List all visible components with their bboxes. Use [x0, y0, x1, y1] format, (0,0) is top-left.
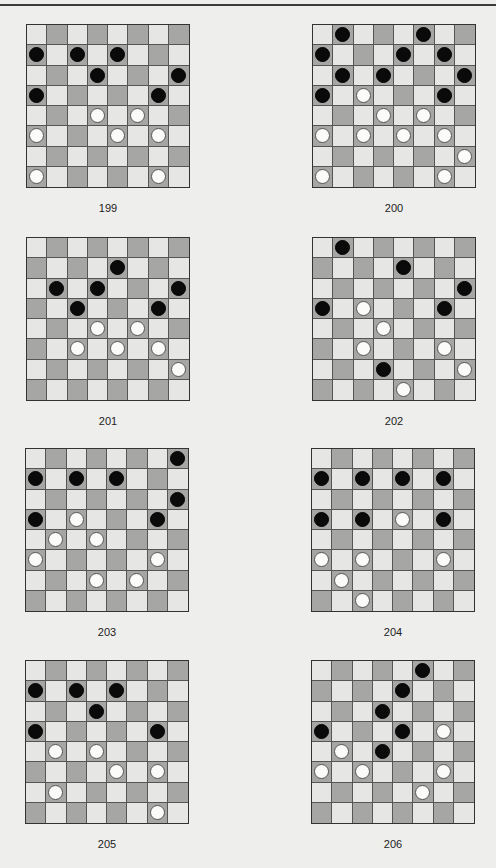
board-square [27, 106, 47, 126]
white-checker-piece-icon [356, 341, 371, 356]
board-square [127, 702, 147, 722]
board-square [27, 319, 47, 339]
board-square [128, 339, 148, 359]
black-checker-piece-icon [70, 47, 85, 62]
board-square [26, 783, 46, 803]
board-square [47, 106, 67, 126]
board-square [107, 681, 127, 701]
board-square [68, 25, 88, 45]
board-square [169, 258, 189, 278]
board-square [128, 45, 148, 65]
board-square [67, 449, 87, 469]
board-square [434, 510, 454, 530]
board-square [374, 238, 394, 258]
black-checker-piece-icon [29, 88, 44, 103]
board-square [108, 66, 128, 86]
board-square [333, 126, 353, 146]
board-square [354, 339, 374, 359]
board-square [333, 319, 353, 339]
board-square [354, 258, 374, 278]
board-square [148, 722, 168, 742]
board-square [434, 550, 454, 570]
board-square [26, 571, 46, 591]
board-square [455, 66, 475, 86]
board-square [414, 299, 434, 319]
black-checker-piece-icon [355, 471, 370, 486]
puzzle-199: 199 [26, 24, 190, 214]
board-square [414, 66, 434, 86]
board-square [107, 742, 127, 762]
white-checker-piece-icon [396, 128, 411, 143]
board-square [46, 702, 66, 722]
board-square [26, 803, 46, 823]
board-square [435, 380, 455, 400]
board-square [354, 238, 374, 258]
board-square [413, 783, 433, 803]
white-checker-piece-icon [28, 552, 43, 567]
board-square [333, 279, 353, 299]
puzzle-number-label: 200 [312, 202, 476, 214]
board-square [455, 279, 475, 299]
board-square [373, 803, 393, 823]
board-square [128, 279, 148, 299]
board-square [127, 490, 147, 510]
board-square [414, 258, 434, 278]
board-square [434, 742, 454, 762]
board-square [454, 762, 474, 782]
board-square [46, 591, 66, 611]
board-square [168, 762, 188, 782]
puzzle-205: 205 [25, 660, 189, 850]
white-checker-piece-icon [90, 321, 105, 336]
board-square [67, 783, 87, 803]
board-square [68, 66, 88, 86]
board-square [27, 86, 47, 106]
board-square [435, 279, 455, 299]
board-square [149, 299, 169, 319]
board-square [68, 319, 88, 339]
board-square [68, 360, 88, 380]
board-square [374, 86, 394, 106]
board-square [88, 360, 108, 380]
board-square [168, 591, 188, 611]
board-square [435, 86, 455, 106]
board-square [413, 762, 433, 782]
board-square [373, 449, 393, 469]
black-checker-piece-icon [109, 471, 124, 486]
board-square [47, 258, 67, 278]
board-square [88, 339, 108, 359]
board-square [435, 45, 455, 65]
black-checker-piece-icon [395, 683, 410, 698]
board-square [148, 490, 168, 510]
white-checker-piece-icon [70, 341, 85, 356]
board-square [414, 86, 434, 106]
board-square [168, 702, 188, 722]
board-square [393, 469, 413, 489]
puzzle-201: 201 [26, 237, 190, 427]
board-square [312, 550, 332, 570]
board-square [88, 25, 108, 45]
white-checker-piece-icon [48, 744, 63, 759]
board-square [46, 803, 66, 823]
board-square [374, 25, 394, 45]
board-square [46, 783, 66, 803]
board-square [87, 571, 107, 591]
white-checker-piece-icon [48, 532, 63, 547]
board-square [455, 299, 475, 319]
board-square [27, 147, 47, 167]
board-square [354, 167, 374, 187]
board-square [435, 126, 455, 146]
top-rule-divider [0, 4, 496, 6]
board-square [107, 571, 127, 591]
board-square [168, 803, 188, 823]
board-square [312, 803, 332, 823]
board-square [169, 86, 189, 106]
board-square [313, 106, 333, 126]
board-square [354, 126, 374, 146]
black-checker-piece-icon [150, 724, 165, 739]
board-square [67, 469, 87, 489]
board-square [435, 66, 455, 86]
board-square [128, 319, 148, 339]
checkers-board [26, 24, 190, 188]
black-checker-piece-icon [28, 683, 43, 698]
black-checker-piece-icon [90, 281, 105, 296]
